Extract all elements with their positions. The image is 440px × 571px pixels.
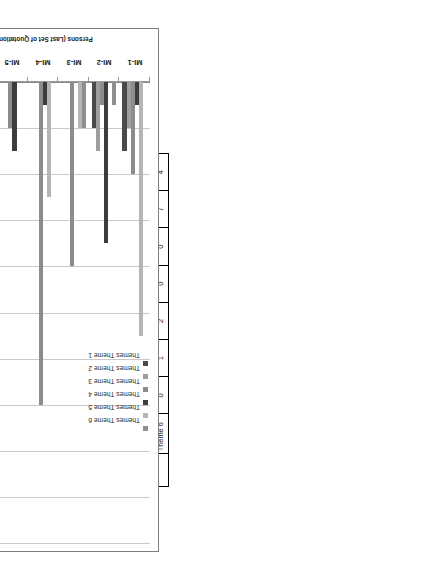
bar-mi-4-series-3[interactable] [39,82,43,405]
legend-swatch-icon [143,361,148,366]
chart-frame: Persons (Last Set of Quotations) MI-1MI-… [0,28,159,552]
bar-group-mi-5 [0,82,28,543]
bar-mi-1-series-2[interactable] [127,82,131,128]
bar-mi-2-series-6[interactable] [112,82,116,105]
bar-mi-5-series-3[interactable] [8,82,12,128]
legend-swatch-icon [143,426,148,431]
category-label-text: MI-5 [5,58,20,67]
legend-item-label: Themes Theme 2 [88,365,140,372]
value-axis-title-text: Persons (Last Set of Quotations) [0,36,93,43]
legend-swatch-icon [143,413,148,418]
bar-mi-2-series-4[interactable] [104,82,108,243]
bar-mi-3-series-3[interactable] [70,82,74,266]
bar-chart-container: Persons (Last Set of Quotations) MI-1MI-… [0,28,159,552]
bar-mi-3-series-5[interactable] [78,82,82,128]
bar-mi-3-series-6[interactable] [82,82,86,128]
legend-swatch-icon [143,387,148,392]
category-label-text: MI-4 [36,58,51,67]
category-label-mi-4: MI-4 [28,43,59,81]
bar-mi-4-series-4[interactable] [43,82,47,105]
bar-mi-1-series-1[interactable] [123,82,127,151]
category-label-mi-3: MI-3 [58,43,89,81]
bar-mi-2-series-2[interactable] [96,82,100,151]
legend-swatch-icon [143,374,148,379]
category-label-text: MI-3 [66,58,81,67]
category-axis: MI-1MI-2MI-3MI-4MI-5MI-6MI-7 [0,43,150,81]
category-label-mi-2: MI-2 [89,43,120,81]
bar-mi-1-series-4[interactable] [135,82,139,105]
category-label-mi-5: MI-5 [0,43,28,81]
bar-mi-2-series-1[interactable] [92,82,96,128]
bar-mi-5-series-4[interactable] [12,82,16,151]
legend-item-label: Themes Theme 1 [88,352,140,359]
legend-item-label: Themes Theme 6 [88,417,140,424]
chart-legend: Themes Theme 1Themes Theme 2Themes Theme… [64,359,148,537]
bar-mi-2-series-3[interactable] [100,82,104,105]
legend-item-label: Themes Theme 4 [88,391,140,398]
bar-mi-1-series-5[interactable] [139,82,143,336]
legend-item-label: Themes Theme 3 [88,378,140,385]
gridline [0,543,150,544]
legend-swatch-icon [143,400,148,405]
bar-group-mi-4 [28,82,59,543]
category-label-text: MI-2 [97,58,112,67]
bar-mi-1-series-3[interactable] [131,82,135,174]
category-label-mi-1: MI-1 [119,43,150,81]
category-label-text: MI-1 [127,58,142,67]
bar-mi-4-series-5[interactable] [47,82,51,197]
legend-item-6[interactable]: Themes Theme 6 [68,424,148,436]
legend-item-label: Themes Theme 5 [88,404,140,411]
